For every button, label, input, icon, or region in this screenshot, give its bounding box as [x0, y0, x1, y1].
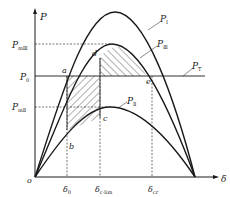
- point-b-label: b: [69, 142, 74, 151]
- delta-cr-label: δcr: [148, 185, 159, 195]
- point-e-label: e: [146, 77, 151, 86]
- p0-label: P0: [19, 72, 29, 83]
- curve-p1: [35, 12, 195, 177]
- x-axis-label: δ: [221, 174, 226, 184]
- p3-label: PⅢ: [156, 39, 168, 50]
- y-axis-arrow-icon: [33, 8, 37, 14]
- power-angle-diagram: P δ o PmⅢ P0 PmⅡ PI PⅢ PⅡ PT δ0 δc·lim δ…: [0, 0, 230, 197]
- p1-leader: [148, 22, 160, 30]
- point-a-label: a: [62, 66, 67, 75]
- point-d-label: d: [92, 49, 97, 58]
- p2-label: PⅡ: [126, 96, 137, 107]
- pm3-label: PmⅢ: [11, 40, 28, 51]
- delta0-label: δ0: [63, 185, 71, 195]
- x-axis-arrow-icon: [213, 175, 219, 179]
- p1-label: PI: [159, 14, 168, 25]
- delta-clim-label: δc·lim: [95, 185, 112, 195]
- y-axis-label: P: [39, 11, 47, 22]
- origin-label: o: [27, 176, 32, 185]
- pm2-label: PmⅡ: [11, 102, 27, 113]
- point-c-label: c: [103, 114, 108, 123]
- p2-leader: [118, 102, 127, 108]
- pt-label: PT: [191, 61, 202, 72]
